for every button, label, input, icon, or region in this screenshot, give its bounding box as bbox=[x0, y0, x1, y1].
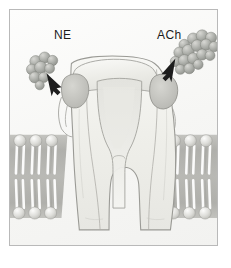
phospholipid-heads-top-left bbox=[14, 135, 58, 147]
ne-arrow bbox=[47, 73, 62, 96]
ach-label: ACh bbox=[157, 28, 182, 42]
phospholipid-heads-bottom-left bbox=[13, 207, 57, 219]
illustration-panel: NE ACh bbox=[9, 9, 218, 246]
receptor-protein bbox=[59, 56, 178, 230]
phospholipid-heads-bottom-right bbox=[167, 207, 211, 219]
ne-label: NE bbox=[54, 28, 71, 42]
receptor-membrane-illustration bbox=[10, 10, 217, 245]
figure-page: NE ACh bbox=[0, 0, 231, 268]
membrane-left-leaflet bbox=[10, 135, 67, 219]
